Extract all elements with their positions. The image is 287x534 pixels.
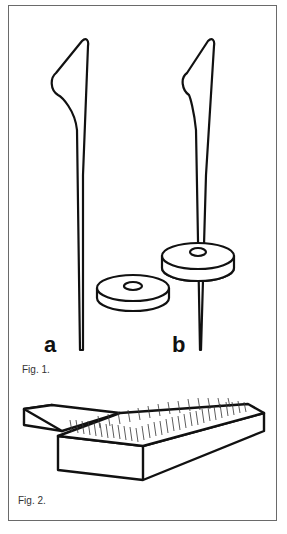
spindle-a-icon: [52, 39, 88, 350]
illustrations: [0, 0, 287, 534]
figure-1-caption: Fig. 1.: [22, 364, 50, 375]
label-a: a: [44, 332, 56, 358]
whorl-loose-icon: [97, 275, 169, 311]
figure-2-caption: Fig. 2.: [18, 495, 46, 506]
spindle-b-icon: [183, 39, 215, 350]
label-b: b: [172, 332, 185, 358]
whorl-mounted-icon: [162, 243, 234, 281]
